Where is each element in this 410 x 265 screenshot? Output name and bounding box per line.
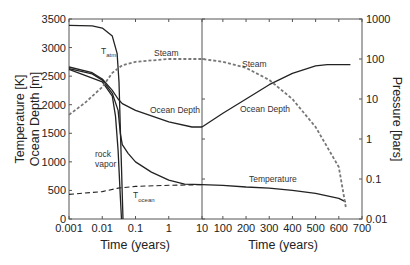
series-ocean-depth <box>202 65 350 127</box>
y-tick-label-right: 100 <box>366 53 384 65</box>
x-tick-label: 0.1 <box>128 222 143 234</box>
annotation-t-atm: Tatm <box>101 46 116 58</box>
annotation-steam-right: Steam <box>242 59 267 69</box>
x-axis-title-right: Time (years) <box>248 238 318 252</box>
x-tick-label: 1 <box>166 222 172 234</box>
y-tick-label-left: 500 <box>48 184 66 196</box>
annotation-steam-left: Steam <box>154 48 179 58</box>
y-tick-label-left: 3500 <box>42 13 66 25</box>
chart: 0.0010.010.11101002003004005006007000500… <box>0 0 410 265</box>
annotation-t-ocean: Tocean <box>133 190 155 203</box>
annotation-ocean-depth-left: Ocean Depth <box>150 105 200 115</box>
series-rock-vapor-boundary-to-ocean-depth- <box>69 67 202 127</box>
x-tick-label: 100 <box>214 222 232 234</box>
y-tick-label-right: 0.1 <box>366 173 381 185</box>
y-tick-label-left: 1500 <box>42 127 66 139</box>
y-axis-title-pressure: Pressure [bars] <box>390 77 404 162</box>
x-tick-label: 500 <box>306 222 324 234</box>
x-tick-label: 10 <box>196 222 208 234</box>
y-tick-label-right: 1 <box>366 133 372 145</box>
y-axis-title-temperature: Temperature [K] <box>13 75 27 164</box>
y-tick-label-left: 2000 <box>42 99 66 111</box>
annotation-temperature: Temperature <box>249 174 297 184</box>
annotation-vapor: vapor <box>95 159 116 169</box>
x-tick-label: 200 <box>237 222 255 234</box>
annotation-rock: rock <box>95 149 112 159</box>
tick-labels: 0.0010.010.11101002003004005006007000500… <box>42 13 391 234</box>
y-tick-label-left: 2500 <box>42 70 66 82</box>
series-temperature <box>202 185 346 202</box>
y-tick-label-right: 10 <box>366 93 378 105</box>
series-rock-vapor-boundary-to-temperature- <box>69 69 202 185</box>
x-tick-label: 0.01 <box>92 222 113 234</box>
y-tick-label-right: 0.01 <box>366 213 387 225</box>
y-tick-label-left: 1000 <box>42 156 66 168</box>
x-tick-label: 600 <box>330 222 348 234</box>
x-axis-title-left: Time (years) <box>100 238 170 252</box>
y-axis-title-ocean-depth: Ocean Depth [m] <box>28 72 42 167</box>
x-tick-label: 300 <box>260 222 278 234</box>
y-tick-label-left: 0 <box>60 213 66 225</box>
x-tick-label: 400 <box>283 222 301 234</box>
y-tick-label-right: 1000 <box>366 13 390 25</box>
y-tick-label-left: 3000 <box>42 42 66 54</box>
annotation-ocean-depth-right: Ocean Depth <box>240 104 290 114</box>
